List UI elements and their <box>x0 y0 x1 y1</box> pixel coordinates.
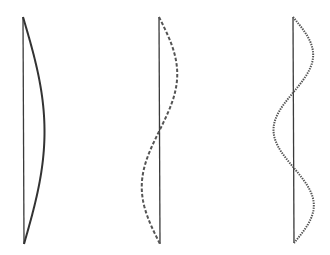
string-3-rest-line <box>293 17 294 243</box>
string-1-wave-curve <box>23 17 45 244</box>
standing-waves-diagram <box>0 0 330 255</box>
string-mode-2 <box>142 17 178 244</box>
string-mode-3 <box>274 17 314 243</box>
string-mode-1 <box>23 17 45 244</box>
string-2-rest-line <box>159 17 160 244</box>
string-1-rest-line <box>23 17 24 244</box>
